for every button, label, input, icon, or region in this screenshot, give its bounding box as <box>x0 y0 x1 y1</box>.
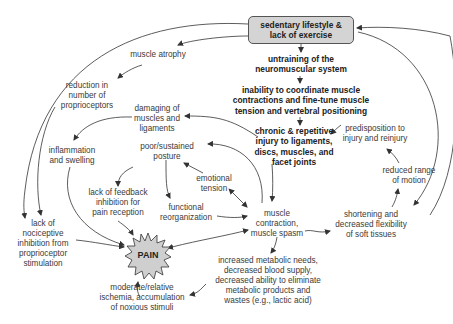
pain-label: PAIN <box>124 250 172 260</box>
sedentary-lifestyle-box: sedentary lifestyle & lack of exercise <box>248 16 354 44</box>
node-muscle-contraction: muscle contraction, muscle spasm <box>251 209 303 239</box>
node-damaging: damaging of muscles and ligaments <box>134 104 180 134</box>
node-ischemia: moderate/relative ischemia, accumulation… <box>99 283 184 313</box>
node-metabolic: increased metabolic needs, decreased blo… <box>215 256 321 306</box>
box-line2: lack of exercise <box>260 30 341 40</box>
node-inability: inability to coordinate muscle contracti… <box>233 85 369 116</box>
node-predisposition: predisposition to injury and reinjury <box>343 124 408 144</box>
node-emotional-tension: emotional tension <box>196 174 232 194</box>
node-reduced-rom: reduced range of motion <box>383 166 436 186</box>
node-chronic-injury: chronic & repetitive injury to ligaments… <box>254 126 333 168</box>
node-lack-feedback: lack of feedback inhibition for pain rec… <box>88 188 147 218</box>
node-muscle-atrophy: muscle atrophy <box>130 50 186 60</box>
node-reduction-proprioceptors: reduction in number of proprioceptors <box>61 81 113 111</box>
node-inflammation: inflammation and swelling <box>49 146 95 166</box>
node-untraining: untraining of the neuromuscular system <box>255 54 347 75</box>
node-poor-posture: poor/sustained posture <box>140 142 194 162</box>
box-line1: sedentary lifestyle & <box>260 20 341 30</box>
node-functional-reorganization: functional reorganization <box>160 203 212 223</box>
node-shortening: shortening and decreased flexibility of … <box>335 210 406 240</box>
node-lack-nociceptive: lack of nociceptive inhibition from prop… <box>18 219 69 269</box>
